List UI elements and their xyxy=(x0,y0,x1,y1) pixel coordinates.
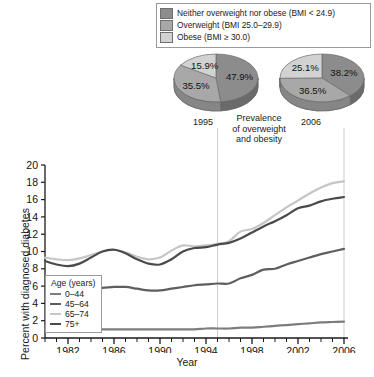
series-legend-label: 75+ xyxy=(65,319,80,329)
series-legend-label: 65–74 xyxy=(65,309,89,319)
series-legend-line-65-74 xyxy=(50,313,61,315)
svg-text:4: 4 xyxy=(32,297,38,309)
series-legend-item: 65–74 xyxy=(50,309,95,319)
svg-text:18: 18 xyxy=(26,176,38,188)
pie-chart-1995: 47.9%35.5%15.9% xyxy=(166,46,266,120)
pie-legend-swatch-overweight xyxy=(160,20,173,31)
svg-text:2006: 2006 xyxy=(332,345,356,353)
svg-text:35.5%: 35.5% xyxy=(182,80,210,91)
svg-text:1986: 1986 xyxy=(102,345,126,353)
pie-legend-label: Neither overweight nor obese (BMI < 24.9… xyxy=(177,9,335,18)
svg-text:15.9%: 15.9% xyxy=(191,60,219,71)
svg-text:20: 20 xyxy=(26,159,38,171)
svg-text:38.2%: 38.2% xyxy=(330,67,358,78)
pie-1995-svg: 47.9%35.5%15.9% xyxy=(166,46,266,120)
svg-text:36.5%: 36.5% xyxy=(299,85,327,96)
svg-text:0: 0 xyxy=(32,332,38,344)
pie-legend-swatch-obese xyxy=(160,32,173,43)
series-legend: Age (years) 0–44 45–64 65–74 75+ xyxy=(45,275,102,333)
series-legend-item: 75+ xyxy=(50,319,95,329)
svg-text:2: 2 xyxy=(32,314,38,326)
series-legend-title: Age (years) xyxy=(51,278,95,288)
svg-text:1990: 1990 xyxy=(148,345,172,353)
svg-text:1998: 1998 xyxy=(240,345,264,353)
svg-text:1982: 1982 xyxy=(56,345,80,353)
pie-legend-swatch-neither xyxy=(160,8,173,19)
svg-text:2002: 2002 xyxy=(286,345,310,353)
series-legend-item: 0–44 xyxy=(50,289,95,299)
series-legend-line-75plus xyxy=(50,323,61,325)
series-legend-label: 0–44 xyxy=(65,289,84,299)
pie-legend-item: Overweight (BMI 25.0–29.9) xyxy=(160,20,366,31)
svg-text:47.9%: 47.9% xyxy=(226,71,254,82)
pie-2006-svg: 38.2%36.5%25.1% xyxy=(272,46,372,120)
pie-legend-label: Obese (BMI ≥ 30.0) xyxy=(177,33,250,42)
svg-text:8: 8 xyxy=(32,262,38,274)
pie-legend-item: Neither overweight nor obese (BMI < 24.9… xyxy=(160,8,366,19)
pie-legend: Neither overweight nor obese (BMI < 24.9… xyxy=(156,3,371,48)
pie-legend-item: Obese (BMI ≥ 30.0) xyxy=(160,32,366,43)
series-legend-item: 45–64 xyxy=(50,299,95,309)
pie-legend-label: Overweight (BMI 25.0–29.9) xyxy=(177,21,282,30)
svg-text:6: 6 xyxy=(32,280,38,292)
svg-text:25.1%: 25.1% xyxy=(292,62,320,73)
x-axis-label: Year xyxy=(0,356,374,368)
svg-text:1994: 1994 xyxy=(194,345,218,353)
pie-chart-2006: 38.2%36.5%25.1% xyxy=(272,46,372,120)
series-legend-line-0-44 xyxy=(50,293,61,295)
figure-root: Neither overweight nor obese (BMI < 24.9… xyxy=(0,0,374,377)
y-axis-label: Percent with diagnosed diabetes xyxy=(19,199,31,369)
series-legend-line-45-64 xyxy=(50,303,61,305)
pie-caption-line1: Prevalence xyxy=(216,113,302,124)
series-legend-label: 45–64 xyxy=(65,299,89,309)
line-chart: 0246810121416182019821986199019941998200… xyxy=(0,128,374,377)
